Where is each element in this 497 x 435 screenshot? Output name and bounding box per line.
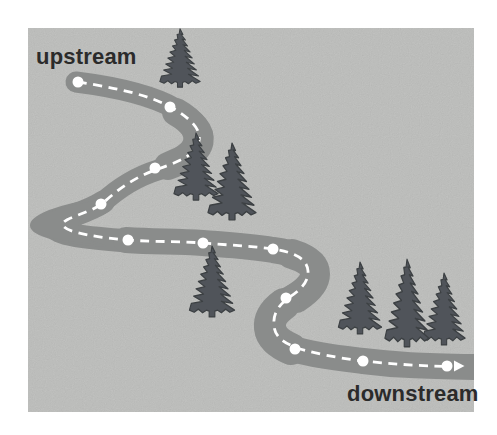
sampling-point-2: [165, 102, 176, 113]
upstream-label: upstream: [36, 44, 137, 70]
sampling-point-3: [150, 163, 161, 174]
sampling-point-8: [281, 293, 292, 304]
diagram-stage: upstream downstream: [0, 0, 497, 435]
downstream-label: downstream: [347, 381, 479, 407]
sampling-point-7: [268, 244, 279, 255]
sampling-point-1: [73, 77, 84, 88]
sampling-point-4: [96, 199, 107, 210]
sampling-point-9: [290, 344, 301, 355]
sampling-point-10: [358, 356, 369, 367]
sampling-point-6: [198, 238, 209, 249]
sampling-point-11: [442, 361, 453, 372]
sampling-point-5: [123, 235, 134, 246]
